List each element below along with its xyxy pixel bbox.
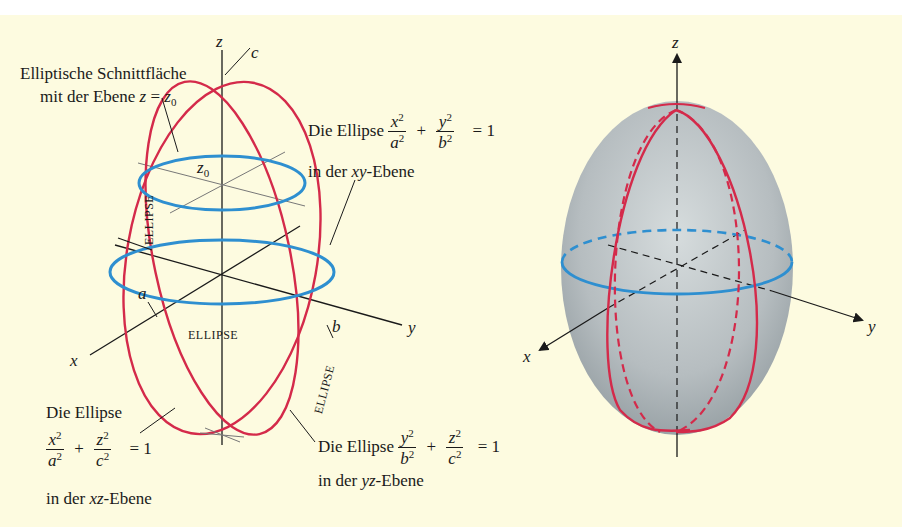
left-x-axis-label: x xyxy=(70,352,78,369)
left-z-axis-label: z xyxy=(216,33,223,50)
xz-ellipse-equation: x2a2 + z2c2 = 1 xyxy=(46,430,152,471)
xy-ellipse-plane-label: in der xy-Ebene xyxy=(308,163,415,180)
left-y-axis-label: y xyxy=(408,319,416,336)
xy-ellipse-annotation: Die Ellipse x2a2 + y2b2 = 1 xyxy=(308,112,495,153)
vertical-ellipse-tag: ELLIPSE xyxy=(143,195,155,245)
xz-ellipse-title: Die Ellipse xyxy=(46,404,122,421)
right-y-axis-label: y xyxy=(868,318,876,335)
yz-ellipse-plane-label: in der yz-Ebene xyxy=(318,472,424,489)
b-label: b xyxy=(332,318,341,335)
cross-section-line1: Elliptische Schnittfläche xyxy=(20,65,187,82)
horizontal-ellipse-tag: ELLIPSE xyxy=(188,329,238,341)
cross-section-line2: mit der Ebene z = z0 xyxy=(40,88,176,108)
yz-ellipse-annotation: Die Ellipse y2b2 + z2c2 = 1 xyxy=(318,428,500,469)
c-label: c xyxy=(251,44,259,61)
right-x-axis-label: x xyxy=(523,348,531,365)
right-z-axis-label: z xyxy=(672,34,679,51)
xz-ellipse-plane-label: in der xz-Ebene xyxy=(46,490,152,507)
a-label: a xyxy=(138,285,147,302)
z0-label: z0 xyxy=(197,159,209,179)
